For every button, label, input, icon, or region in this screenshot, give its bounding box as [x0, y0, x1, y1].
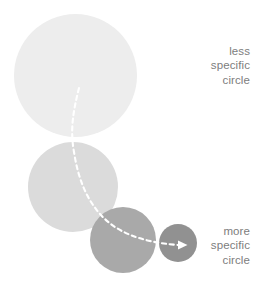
more-specific-label: more specific circle — [180, 224, 250, 267]
largest-circle — [14, 14, 137, 137]
less-specific-label: less specific circle — [180, 44, 250, 87]
medium-circle — [90, 207, 156, 273]
diagram-canvas: less specific circle more specific circl… — [0, 0, 258, 292]
